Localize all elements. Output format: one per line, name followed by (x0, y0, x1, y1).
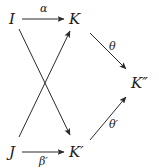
node-J: J (6, 143, 16, 161)
node-K-double-prime: K″ (130, 74, 148, 92)
commutative-diagram: I K J K′ K″ α β′ θ θ′ (0, 0, 159, 168)
arrow-K-to-Kdoubleprime (90, 33, 126, 69)
label-theta: θ (109, 40, 116, 53)
node-I: I (8, 10, 16, 28)
node-K: K (68, 10, 81, 28)
arrow-Kprime-to-Kdoubleprime (90, 97, 126, 140)
arrow-I-to-Kprime (19, 29, 70, 135)
node-K-prime: K′ (68, 143, 84, 161)
arrow-J-to-K (19, 31, 70, 137)
label-alpha: α (40, 2, 48, 15)
label-beta-prime: β′ (38, 155, 48, 168)
label-theta-prime: θ′ (109, 118, 119, 131)
